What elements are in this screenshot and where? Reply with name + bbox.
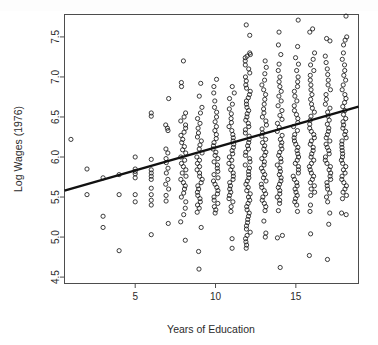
data-point — [342, 63, 346, 67]
data-point — [179, 220, 183, 224]
data-point — [179, 133, 183, 137]
data-point — [294, 112, 298, 116]
data-point — [262, 78, 266, 82]
data-point — [182, 191, 186, 195]
data-point — [101, 225, 105, 229]
data-point — [341, 112, 345, 116]
data-point — [280, 133, 284, 137]
data-point — [328, 211, 332, 215]
data-point — [344, 193, 348, 197]
data-point — [166, 166, 170, 170]
data-point — [69, 137, 73, 141]
data-point — [261, 107, 265, 111]
data-point — [166, 177, 170, 181]
data-point — [323, 54, 327, 58]
data-point — [328, 106, 332, 110]
data-point — [229, 120, 233, 124]
data-point — [264, 65, 268, 69]
data-point — [263, 59, 267, 63]
data-point — [295, 68, 299, 72]
data-point — [199, 139, 203, 143]
data-point — [324, 195, 328, 199]
data-point — [340, 88, 344, 92]
data-point — [327, 118, 331, 122]
data-point — [212, 91, 216, 95]
data-point — [326, 72, 330, 76]
data-point — [264, 179, 268, 183]
data-point — [296, 75, 300, 79]
data-point — [216, 176, 220, 180]
data-point — [341, 104, 345, 108]
data-point — [229, 205, 233, 209]
data-point — [117, 249, 121, 253]
data-point — [117, 193, 121, 197]
data-point — [263, 72, 267, 76]
data-point — [343, 92, 347, 96]
data-point — [196, 249, 200, 253]
data-point — [133, 193, 137, 197]
data-point — [195, 210, 199, 214]
data-point — [247, 67, 251, 71]
data-point — [195, 116, 199, 120]
data-point — [149, 186, 153, 190]
y-axis-title: Log Wages (1976) — [12, 106, 24, 192]
data-point — [232, 91, 236, 95]
data-point — [343, 68, 347, 72]
data-point — [308, 209, 312, 213]
data-point — [230, 128, 234, 132]
data-point — [212, 160, 216, 164]
data-point — [198, 111, 202, 115]
data-points-layer — [69, 14, 349, 271]
data-point — [212, 84, 216, 88]
data-point — [308, 63, 312, 67]
data-point — [133, 155, 137, 159]
data-point — [184, 174, 188, 178]
data-point — [276, 43, 280, 47]
data-point — [325, 122, 329, 126]
y-tick-label: 4.5 — [50, 270, 61, 284]
data-point — [264, 123, 268, 127]
plot-canvas: 4.55.05.56.06.57.07.5 51015 Years of Edu… — [0, 0, 378, 345]
data-point — [216, 157, 220, 161]
data-point — [243, 75, 247, 79]
data-point — [101, 214, 105, 218]
data-point — [149, 198, 153, 202]
data-point — [149, 203, 153, 207]
data-point — [149, 193, 153, 197]
data-point — [308, 203, 312, 207]
data-point — [213, 120, 217, 124]
data-point — [308, 73, 312, 77]
data-point — [342, 73, 346, 77]
data-point — [85, 167, 89, 171]
data-point — [263, 235, 267, 239]
data-point — [230, 102, 234, 106]
data-point — [292, 104, 296, 108]
data-point — [195, 135, 199, 139]
data-point — [179, 119, 183, 123]
data-point — [133, 176, 137, 180]
y-tick-label: 5.5 — [50, 190, 61, 204]
data-point — [295, 209, 299, 213]
data-point — [279, 99, 283, 103]
data-point — [243, 63, 247, 67]
data-point — [328, 139, 332, 143]
data-point — [183, 238, 187, 242]
data-point — [328, 39, 332, 43]
data-point — [262, 88, 266, 92]
data-point — [260, 83, 264, 87]
data-point — [277, 94, 281, 98]
data-point — [309, 88, 313, 92]
x-axis-ticks — [135, 284, 296, 289]
data-point — [277, 80, 281, 84]
data-point — [309, 83, 313, 87]
data-point — [184, 200, 188, 204]
data-point — [263, 97, 267, 101]
data-point — [149, 233, 153, 237]
data-point — [296, 44, 300, 48]
data-point — [229, 116, 233, 120]
data-point — [184, 168, 188, 172]
data-point — [309, 97, 313, 101]
data-point — [230, 237, 234, 241]
data-point — [310, 92, 314, 96]
data-point — [312, 51, 316, 55]
